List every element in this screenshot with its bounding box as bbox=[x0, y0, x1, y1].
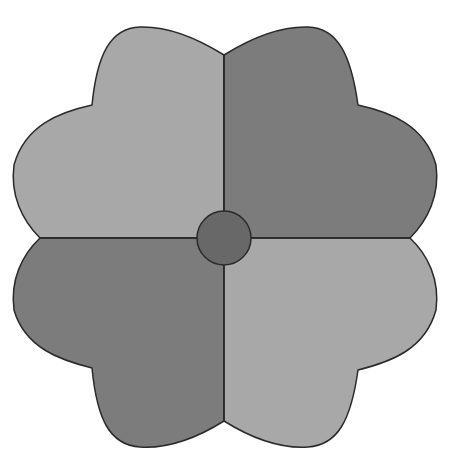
quadrant-top-right bbox=[224, 27, 437, 238]
quadrant-top-left bbox=[13, 27, 224, 238]
center-circle bbox=[197, 211, 251, 265]
flower-diagram bbox=[0, 0, 452, 468]
quadrant-bottom-left bbox=[13, 238, 224, 447]
quadrant-bottom-right bbox=[224, 238, 437, 447]
